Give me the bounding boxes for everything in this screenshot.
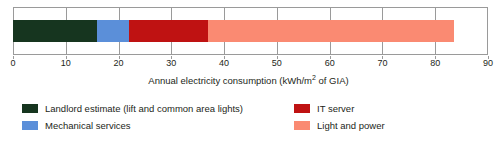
x-tick-label: 90 [483, 58, 493, 69]
stacked-bar [13, 20, 488, 42]
x-axis-title-main: Annual electricity consumption (kWh/m [148, 75, 312, 86]
x-tick-label: 50 [272, 58, 282, 69]
x-axis-title: Annual electricity consumption (kWh/m2 o… [0, 72, 497, 87]
legend-item-label: Landlord estimate (lift and common area … [45, 103, 243, 114]
legend-column-left: Landlord estimate (lift and common area … [22, 100, 243, 134]
bar-segment [97, 20, 129, 42]
legend-swatch-icon [294, 121, 310, 130]
x-tick-label: 80 [430, 58, 440, 69]
legend-item[interactable]: Light and power [294, 117, 385, 134]
legend-item[interactable]: Mechanical services [22, 117, 243, 134]
x-tick-label: 20 [114, 58, 124, 69]
bar-segment [208, 20, 453, 42]
bar-segment [13, 20, 97, 42]
x-tick-label: 30 [166, 58, 176, 69]
chart-plot-area [13, 7, 488, 55]
x-axis-title-tail: of GIA) [316, 75, 349, 86]
bar-segment [129, 20, 208, 42]
legend-item-label: Mechanical services [45, 120, 131, 131]
legend-item-label: Light and power [317, 120, 385, 131]
legend-swatch-icon [22, 104, 38, 113]
x-axis: 0102030405060708090 [13, 56, 488, 70]
legend-item-label: IT server [317, 103, 354, 114]
x-tick-label: 0 [10, 58, 15, 69]
x-tick-label: 70 [377, 58, 387, 69]
legend-column-right: IT serverLight and power [294, 100, 385, 134]
legend-swatch-icon [22, 121, 38, 130]
cut-off-caption [8, 145, 308, 152]
legend-item[interactable]: Landlord estimate (lift and common area … [22, 100, 243, 117]
legend-item[interactable]: IT server [294, 100, 385, 117]
x-tick-label: 10 [61, 58, 71, 69]
x-tick-label: 60 [325, 58, 335, 69]
x-tick-label: 40 [219, 58, 229, 69]
legend-swatch-icon [294, 104, 310, 113]
